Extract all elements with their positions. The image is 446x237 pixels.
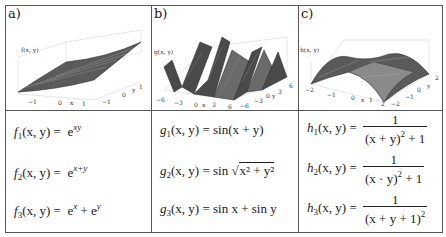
formula-h2: h2(x, y) = 1(x · y)2 + 1 (307, 153, 424, 186)
svg-text:−3: −3 (254, 97, 263, 104)
svg-text:2: 2 (381, 100, 385, 107)
svg-text:1: 1 (82, 100, 86, 107)
panel-label: c) (301, 6, 313, 21)
surface-plot-c: h(x, y) −2−10x12 −2−10y2 (299, 22, 444, 110)
svg-text:0: 0 (351, 94, 355, 101)
svg-text:1: 1 (139, 83, 143, 90)
formula-g3: g3(x, y) = sin x + sin y (160, 201, 277, 218)
svg-text:−6: −6 (240, 102, 249, 109)
svg-text:6: 6 (289, 82, 293, 89)
svg-text:−1: −1 (102, 98, 111, 105)
formulas-f: f1(x, y) = exy f2(x, y) = ex+y f3(x, y) … (6, 111, 151, 234)
formula-f2: f2(x, y) = ex+y (14, 163, 87, 182)
surface-plot-a: f(x, y) −10x1 −10y1 (6, 22, 151, 110)
svg-text:3: 3 (212, 101, 216, 108)
svg-text:x: x (202, 101, 206, 108)
svg-text:y: y (426, 82, 431, 90)
z-axis-label: f(x, y) (21, 46, 39, 54)
svg-text:0: 0 (58, 99, 62, 106)
svg-text:−3: −3 (174, 99, 183, 106)
formula-g1: g1(x, y) = sin(x + y) (160, 122, 264, 139)
svg-text:−1: −1 (28, 98, 37, 105)
svg-text:0: 0 (266, 92, 270, 99)
panel-a: a) f(x, y) −10x1 −10y1 (6, 6, 151, 110)
svg-text:y: y (271, 92, 276, 100)
svg-text:y: y (131, 86, 136, 94)
formula-g2: g2(x, y) = sin √x² + y² (160, 163, 274, 180)
svg-text:1: 1 (369, 96, 373, 103)
svg-text:x: x (70, 99, 74, 106)
svg-text:3: 3 (278, 88, 282, 95)
svg-text:0: 0 (122, 91, 126, 98)
formula-h3: h3(x, y) = 1(x + y + 1)2 (307, 193, 427, 226)
formula-h1: h1(x, y) = 1(x + y)2 + 1 (307, 113, 427, 146)
svg-text:0: 0 (194, 101, 198, 108)
surface-plot-b: g(x, y) −6−30x36 −6−30y36 (152, 22, 298, 110)
svg-text:2: 2 (435, 74, 439, 81)
formula-f3: f3(x, y) = ex + ey (14, 201, 101, 220)
formulas-h: h1(x, y) = 1(x + y)2 + 1 h2(x, y) = 1(x … (299, 111, 444, 234)
svg-text:6: 6 (228, 103, 232, 110)
svg-text:−1: −1 (327, 91, 336, 98)
svg-text:−2: −2 (305, 86, 314, 93)
z-axis-label: h(x, y) (300, 46, 319, 54)
panel-b: b) g( (152, 6, 298, 110)
panel-label: b) (154, 6, 167, 21)
panel-c: c) h(x, y) −2−10x12 −2−10y2 (299, 6, 444, 110)
z-axis-label: g(x, y) (154, 48, 173, 56)
svg-text:0: 0 (417, 86, 421, 93)
formula-f1: f1(x, y) = exy (14, 122, 81, 141)
svg-text:−2: −2 (391, 100, 400, 107)
svg-text:−6: −6 (156, 96, 165, 103)
function-table: a) f(x, y) −10x1 −10y1 b) (5, 5, 443, 233)
svg-text:−1: −1 (405, 93, 414, 100)
formulas-g: g1(x, y) = sin(x + y) g2(x, y) = sin √x²… (152, 111, 298, 234)
panel-label: a) (8, 6, 21, 21)
